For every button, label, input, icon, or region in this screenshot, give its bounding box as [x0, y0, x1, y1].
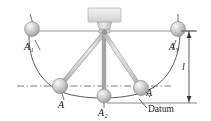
- pendulum-rods: [60, 33, 141, 96]
- pivot-point: [102, 30, 106, 34]
- bob-a1: [25, 22, 40, 37]
- bob-a2: [97, 89, 111, 103]
- label-a1: A1: [24, 42, 33, 52]
- label-length: l: [182, 62, 185, 72]
- bob-a: [52, 78, 67, 93]
- label-a: A: [58, 100, 64, 110]
- figure-canvas: [0, 0, 211, 121]
- label-a2: A2: [98, 108, 107, 118]
- pendulum-figure: A1 A3 A A2 A' l Datum: [0, 0, 211, 121]
- label-a-prime: A': [146, 88, 154, 98]
- dimension-arrow-top: [187, 32, 192, 38]
- label-a3: A3: [169, 42, 178, 52]
- label-datum: Datum: [148, 105, 174, 115]
- ceiling-support: [88, 8, 121, 34]
- leader-a1: [35, 40, 40, 50]
- bob-a3: [171, 22, 186, 37]
- dimension-arrow-bottom: [187, 96, 192, 102]
